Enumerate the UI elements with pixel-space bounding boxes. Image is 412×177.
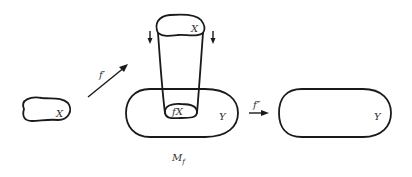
label-x-small: X	[55, 108, 64, 119]
arrowhead-f-double-prime-icon	[261, 110, 269, 116]
label-y-right: Y	[374, 111, 382, 122]
arrow-f-prime	[88, 67, 125, 97]
down-arrowhead-right-icon	[211, 38, 216, 44]
label-f-prime: f′	[98, 69, 106, 80]
mapping-cylinder-diagram: X f′ Y X fX f″ Y Mf	[0, 0, 412, 177]
label-y-left: Y	[219, 111, 227, 122]
caption-mapping-cylinder: Mf	[171, 152, 186, 166]
cylinder-right-wall	[197, 33, 203, 113]
down-arrowhead-left-icon	[148, 38, 153, 44]
label-x-top: X	[190, 23, 199, 34]
cylinder-left-wall	[158, 33, 165, 113]
label-f-double-prime: f″	[252, 99, 261, 110]
label-fx: fX	[171, 106, 184, 117]
